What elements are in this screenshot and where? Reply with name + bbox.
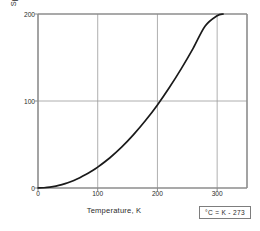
- gridlines: [38, 14, 247, 188]
- x-tick-label: 100: [92, 190, 103, 197]
- x-tick-label: 200: [152, 190, 163, 197]
- x-axis-title: Temperature, K: [38, 206, 190, 215]
- unit-conversion-note: °C = K - 273: [199, 206, 251, 219]
- unit-conversion-text: °C = K - 273: [205, 209, 245, 216]
- enthalpy-temperature-chart: Specific Enthalpy Dh in kJ.kg-1 0100200 …: [0, 0, 260, 231]
- x-tick-label: 0: [36, 190, 40, 197]
- x-axis-tick-labels: 0100200300: [0, 190, 260, 202]
- axis-tick-marks: [34, 14, 217, 191]
- x-tick-label: 300: [212, 190, 223, 197]
